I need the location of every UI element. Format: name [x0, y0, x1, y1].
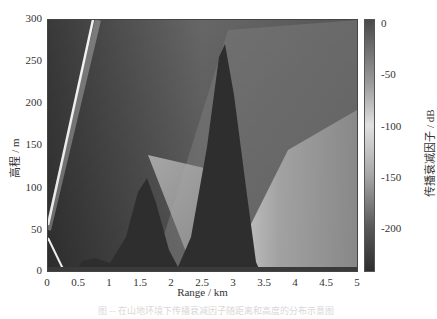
colorbar: [364, 19, 375, 272]
propagation-heatmap: [48, 20, 357, 271]
figure-caption: 图 -- 在山地环境下传播衰减因子随距离和高度的分布示意图: [0, 304, 432, 317]
y-tick-300: 300: [12, 12, 42, 24]
y-tick-50: 50: [12, 223, 42, 235]
colorbar-label: 传播衰减因子 / dB: [421, 109, 437, 196]
y-tick-100: 100: [12, 181, 42, 193]
colorbar-tick-minus200: -200: [381, 222, 401, 234]
colorbar-gradient: [365, 20, 374, 271]
y-axis-label: 高程 / m: [6, 138, 22, 177]
colorbar-tick-minus50: -50: [381, 68, 396, 80]
x-axis-label: Range / km: [0, 286, 405, 298]
y-tick-0: 0: [12, 264, 42, 276]
colorbar-tick-0: 0: [381, 17, 387, 29]
heatmap-plot-area: [47, 19, 358, 272]
y-tick-250: 250: [12, 54, 42, 66]
colorbar-tick-minus100: -100: [381, 120, 401, 132]
y-tick-200: 200: [12, 96, 42, 108]
colorbar-tick-minus150: -150: [381, 171, 401, 183]
